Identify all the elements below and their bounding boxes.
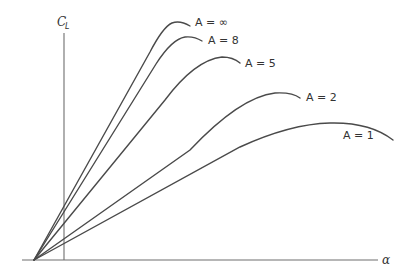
- curve-a-2: [34, 93, 300, 260]
- label-a-5: A = 5: [245, 57, 276, 70]
- label-a-8: A = 8: [208, 34, 239, 47]
- y-axis-label: C L: [57, 15, 69, 31]
- lift-curve-chart: α C L A = ∞ A = 8 A = 5 A = 2 A = 1: [0, 0, 412, 280]
- label-a-1: A = 1: [343, 129, 374, 142]
- curve-a-5: [34, 57, 240, 260]
- x-axis-label: α: [382, 253, 390, 267]
- curve-a-infinity: [34, 22, 190, 260]
- label-a-2: A = 2: [306, 91, 337, 104]
- label-a-infinity: A = ∞: [195, 16, 228, 29]
- curve-a-1: [34, 123, 393, 260]
- curve-a-8: [34, 37, 202, 260]
- svg-text:L: L: [65, 22, 69, 31]
